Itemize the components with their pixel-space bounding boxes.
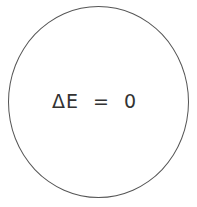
equation-label: ΔE = 0 xyxy=(52,90,137,112)
